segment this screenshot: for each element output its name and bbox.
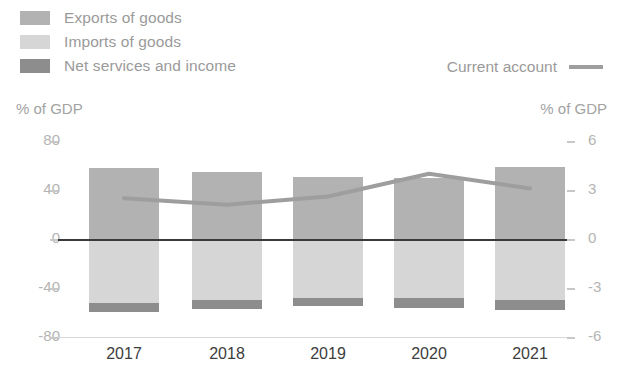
current-account-line: [124, 174, 530, 205]
chart-container: Exports of goods Imports of goods Net se…: [0, 0, 621, 390]
current-account-line-layer: [0, 0, 621, 390]
plot-bottom-rule: [58, 337, 567, 338]
